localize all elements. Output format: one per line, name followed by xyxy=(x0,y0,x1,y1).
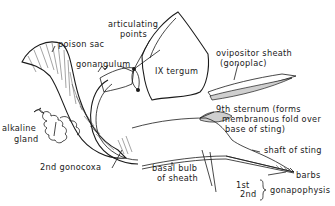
gonangulum-drawing xyxy=(100,68,134,92)
label-shaft-of-sting: shaft of sting xyxy=(264,145,322,155)
label-alkaline: alkaline xyxy=(2,123,36,133)
label-barbs: barbs xyxy=(296,170,321,180)
barbs-tip xyxy=(226,156,294,172)
label-ovipositor-sheath: ovipositor sheath xyxy=(216,48,292,58)
label-9th-sternum-3: base of sting) xyxy=(225,124,285,134)
label-9th-sternum-2: membranous fold over xyxy=(222,114,321,124)
label-9th-sternum-1: 9th sternum (forms xyxy=(216,104,301,114)
label-articulating: articulating xyxy=(108,19,158,29)
label-gonangulum: gonangulum xyxy=(76,59,130,69)
label-gonapophysis: gonapophysis xyxy=(270,185,330,195)
sting-bulb-outline xyxy=(91,80,138,164)
gonocoxa-hatching xyxy=(118,136,132,154)
label-2nd: 2nd xyxy=(240,189,257,199)
label-of-sheath: of sheath xyxy=(157,173,198,183)
label-points: points xyxy=(120,29,147,39)
label-ix-tergum: IX tergum xyxy=(155,66,198,76)
label-2nd-gonocoxa: 2nd gonocoxa xyxy=(40,162,101,172)
label-gland: gland xyxy=(14,134,38,144)
sting-anatomy-diagram: poison sac articulating points gonangulu… xyxy=(0,0,335,206)
label-gonoplac: (gonoplac) xyxy=(220,58,267,68)
sheath-stipple xyxy=(210,78,292,100)
label-poison-sac: poison sac xyxy=(58,39,104,49)
label-basal-bulb: basal bulb xyxy=(152,163,197,173)
articulation-plate xyxy=(132,69,139,90)
